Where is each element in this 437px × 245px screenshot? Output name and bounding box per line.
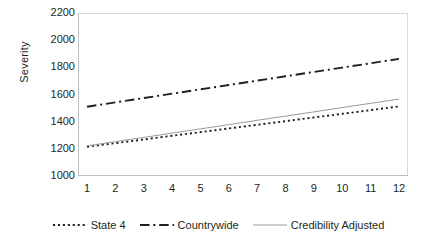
y-tick-label: 1000 (35, 170, 75, 181)
x-tick-label: 2 (100, 182, 130, 194)
legend-item-credibility-adjusted[interactable]: Credibility Adjusted (253, 219, 385, 231)
series-line-countrywide (87, 59, 399, 107)
legend-item-state-4[interactable]: State 4 (53, 219, 126, 231)
x-axis-tick-labels: 123456789101112 (78, 182, 408, 198)
y-tick-label: 1400 (35, 116, 75, 127)
x-tick-label: 3 (129, 182, 159, 194)
x-tick-label: 9 (299, 182, 329, 194)
y-tick-label: 2200 (35, 7, 75, 18)
plot-area (78, 13, 408, 176)
x-tick-label: 7 (242, 182, 272, 194)
legend-label: State 4 (91, 219, 126, 231)
x-tick-label: 12 (384, 182, 414, 194)
x-tick-label: 11 (356, 182, 386, 194)
y-tick-label: 2000 (35, 34, 75, 45)
x-tick-label: 8 (271, 182, 301, 194)
severity-line-chart: Severity 1000120014001600180020002200 12… (0, 0, 437, 245)
solid-line-swatch (253, 220, 287, 230)
series-line-credibility-adjusted (87, 99, 399, 146)
chart-legend: State 4CountrywideCredibility Adjusted (0, 214, 437, 236)
plot-svg (78, 13, 408, 176)
x-tick-label: 6 (214, 182, 244, 194)
x-tick-label: 5 (185, 182, 215, 194)
y-axis-title: Severity (18, 12, 30, 112)
y-tick-label: 1200 (35, 143, 75, 154)
legend-item-countrywide[interactable]: Countrywide (140, 219, 239, 231)
dotted-line-swatch (53, 220, 87, 230)
y-tick-label: 1600 (35, 89, 75, 100)
legend-label: Credibility Adjusted (291, 219, 385, 231)
data-series-group (87, 59, 399, 147)
x-tick-label: 1 (72, 182, 102, 194)
y-axis-tick-labels: 1000120014001600180020002200 (33, 0, 75, 245)
x-tick-label: 4 (157, 182, 187, 194)
series-line-state-4 (87, 106, 399, 146)
dash-dot-line-swatch (140, 220, 174, 230)
x-tick-label: 10 (327, 182, 357, 194)
legend-label: Countrywide (178, 219, 239, 231)
y-tick-label: 1800 (35, 61, 75, 72)
